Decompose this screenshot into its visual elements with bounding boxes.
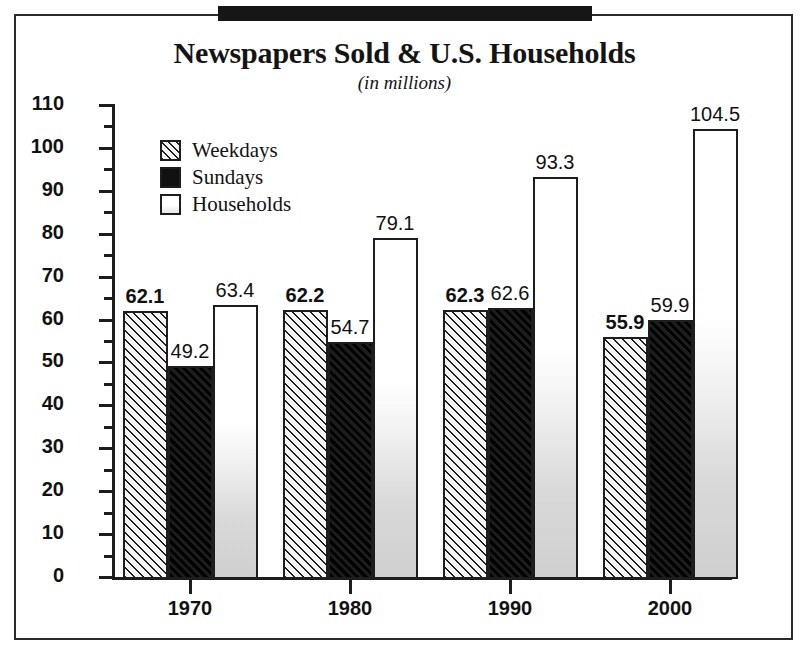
legend-item-weekdays[interactable]: Weekdays (160, 137, 291, 164)
bar-value-label-sundays-1980: 54.7 (310, 316, 390, 339)
x-tick (189, 580, 192, 594)
y-tick-label: 80 (4, 221, 64, 244)
legend-item-sundays[interactable]: Sundays (160, 164, 291, 191)
legend-swatch-households-icon (160, 194, 181, 215)
y-tick-major (99, 276, 113, 279)
y-tick-major (99, 447, 113, 450)
x-tick-label-1970: 1970 (135, 597, 245, 620)
bar-value-label-sundays-2000: 59.9 (630, 294, 710, 317)
y-tick-label: 10 (4, 521, 64, 544)
y-tick-major (99, 190, 113, 193)
bar-value-label-sundays-1970: 49.2 (150, 340, 230, 363)
bar-weekdays-2000 (603, 337, 648, 579)
x-tick-label-1990: 1990 (455, 597, 565, 620)
bar-households-1980 (373, 238, 418, 579)
y-tick-major (99, 576, 113, 579)
y-tick-major (99, 361, 113, 364)
bar-households-2000 (693, 129, 738, 579)
y-tick-major (99, 533, 113, 536)
y-tick-major (99, 319, 113, 322)
y-tick-minor (104, 340, 113, 343)
top-black-band (218, 6, 592, 21)
y-tick-label: 100 (4, 135, 64, 158)
y-tick-label: 50 (4, 349, 64, 372)
bar-sundays-2000 (648, 320, 693, 579)
y-tick-label: 60 (4, 307, 64, 330)
bar-value-label-households-1970: 63.4 (195, 279, 275, 302)
y-tick-minor (104, 426, 113, 429)
bar-value-label-households-1990: 93.3 (515, 151, 595, 174)
y-tick-minor (104, 469, 113, 472)
y-tick-minor (104, 168, 113, 171)
legend-label: Sundays (192, 165, 263, 190)
bar-weekdays-1980 (283, 310, 328, 579)
y-tick-label: 90 (4, 178, 64, 201)
y-tick-label: 0 (4, 564, 64, 587)
y-tick-minor (104, 254, 113, 257)
y-tick-major (99, 147, 113, 150)
legend-swatch-weekdays-icon (160, 140, 181, 161)
bar-chart-plot-area: 0102030405060708090100110 19701980199020… (0, 0, 809, 652)
x-tick (669, 580, 672, 594)
x-tick (509, 580, 512, 594)
y-tick-label: 40 (4, 392, 64, 415)
bar-value-label-households-2000: 104.5 (675, 103, 755, 126)
x-tick-label-1980: 1980 (295, 597, 405, 620)
bar-value-label-households-1980: 79.1 (355, 212, 435, 235)
x-tick (349, 580, 352, 594)
y-tick-major (99, 233, 113, 236)
legend-label: Weekdays (192, 138, 278, 163)
y-tick-minor (104, 125, 113, 128)
legend-swatch-sundays-icon (160, 167, 181, 188)
legend-item-households[interactable]: Households (160, 191, 291, 218)
bar-value-label-weekdays-1970: 62.1 (105, 285, 185, 308)
y-tick-label: 110 (4, 92, 64, 115)
bar-weekdays-1990 (443, 310, 488, 579)
legend-label: Households (192, 192, 291, 217)
y-tick-minor (104, 555, 113, 558)
y-tick-major (99, 104, 113, 107)
bar-households-1990 (533, 177, 578, 579)
y-tick-label: 20 (4, 478, 64, 501)
y-tick-label: 70 (4, 264, 64, 287)
y-tick-minor (104, 383, 113, 386)
chart-legend: WeekdaysSundaysHouseholds (160, 137, 291, 218)
y-tick-major (99, 404, 113, 407)
scanned-page: Newspapers Sold & U.S. Households (in mi… (0, 0, 809, 652)
y-tick-minor (104, 512, 113, 515)
y-tick-major (99, 490, 113, 493)
bar-sundays-1990 (488, 308, 533, 579)
bar-sundays-1980 (328, 342, 373, 579)
bar-value-label-sundays-1990: 62.6 (470, 282, 550, 305)
x-tick-label-2000: 2000 (615, 597, 725, 620)
bar-sundays-1970 (168, 366, 213, 579)
y-tick-minor (104, 211, 113, 214)
bar-value-label-weekdays-1980: 62.2 (265, 284, 345, 307)
y-tick-label: 30 (4, 435, 64, 458)
